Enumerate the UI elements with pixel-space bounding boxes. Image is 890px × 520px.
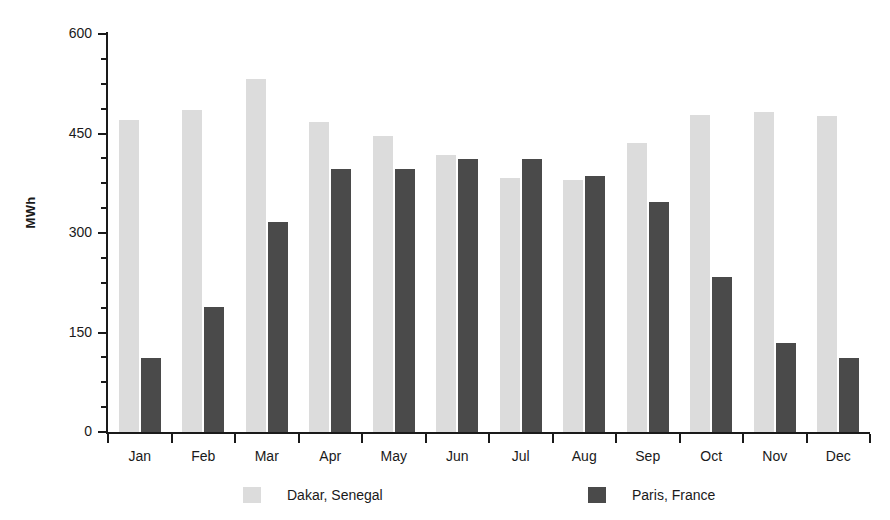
bar (839, 358, 859, 432)
bar (563, 180, 583, 432)
legend-label: Dakar, Senegal (287, 487, 383, 503)
y-tick-label: 600 (32, 25, 92, 41)
y-tick-label: 0 (32, 423, 92, 439)
x-tick (742, 434, 744, 443)
bar (246, 79, 266, 432)
x-tick (298, 434, 300, 443)
y-tick-label-wrapper: 150 (30, 333, 92, 334)
y-tick-minor (101, 108, 107, 110)
bar (141, 358, 161, 432)
x-tick (869, 434, 871, 443)
y-tick-label-wrapper: 600 (30, 34, 92, 35)
y-tick-label: 450 (32, 125, 92, 141)
bar (458, 159, 478, 432)
bar (585, 176, 605, 432)
y-tick-minor (101, 307, 107, 309)
bar (776, 343, 796, 432)
bar (204, 307, 224, 432)
bar (712, 277, 732, 432)
bar (268, 222, 288, 432)
y-tick-label: 150 (32, 324, 92, 340)
bar (331, 169, 351, 432)
bar (649, 202, 669, 432)
legend-item[interactable]: Paris, France (588, 487, 715, 503)
y-tick-minor (101, 282, 107, 284)
legend-item[interactable]: Dakar, Senegal (243, 487, 383, 503)
y-tick-label-wrapper: 0 (30, 432, 92, 433)
x-tick (488, 434, 490, 443)
y-tick-minor (101, 257, 107, 259)
bar (754, 112, 774, 432)
y-tick-minor (101, 83, 107, 85)
bar (436, 155, 456, 432)
bar (395, 169, 415, 432)
y-tick-minor (101, 207, 107, 209)
bar-chart: MWh 0150300450600 JanFebMarAprMayJunJulA… (0, 0, 890, 520)
x-tick (107, 434, 109, 443)
x-tick (425, 434, 427, 443)
y-tick-label-wrapper: 450 (30, 134, 92, 135)
y-tick-minor (101, 182, 107, 184)
legend-swatch-icon (243, 487, 261, 503)
y-tick-major (98, 33, 107, 35)
x-tick (361, 434, 363, 443)
y-tick-minor (101, 356, 107, 358)
y-tick-label-wrapper: 300 (30, 233, 92, 234)
bar (690, 115, 710, 432)
bar (119, 120, 139, 432)
bar (817, 116, 837, 432)
y-tick-minor (101, 406, 107, 408)
x-tick (552, 434, 554, 443)
x-tick (679, 434, 681, 443)
y-tick-label: 300 (32, 224, 92, 240)
x-tick (806, 434, 808, 443)
y-tick-major (98, 431, 107, 433)
y-tick-minor (101, 381, 107, 383)
y-tick-minor (101, 157, 107, 159)
bar (522, 159, 542, 432)
plot-area (108, 34, 870, 432)
bar (500, 178, 520, 432)
chart-legend: Dakar, SenegalParis, France (0, 487, 890, 511)
legend-label: Paris, France (632, 487, 715, 503)
bar (373, 136, 393, 433)
bar (182, 110, 202, 432)
x-tick (615, 434, 617, 443)
y-tick-minor (101, 58, 107, 60)
x-tick-label: Dec (798, 448, 878, 464)
y-tick-major (98, 332, 107, 334)
bar (627, 143, 647, 432)
y-tick-major (98, 232, 107, 234)
bar (309, 122, 329, 432)
x-tick (234, 434, 236, 443)
legend-swatch-icon (588, 487, 606, 503)
y-tick-major (98, 133, 107, 135)
x-tick (171, 434, 173, 443)
